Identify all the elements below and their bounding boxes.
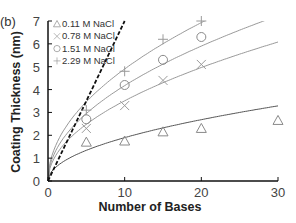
x-marker-icon bbox=[82, 124, 91, 133]
legend-label: 0.11 M NaCl bbox=[62, 18, 114, 29]
circle-marker-icon bbox=[159, 55, 168, 64]
circle-marker-icon bbox=[197, 33, 206, 42]
x-marker-icon bbox=[159, 76, 168, 85]
y-axis-title: Coating Thickness (nm) bbox=[9, 31, 23, 173]
plus-marker-icon bbox=[120, 66, 130, 76]
y-tick-label: 5 bbox=[33, 60, 40, 75]
triangle-marker-icon bbox=[196, 123, 206, 132]
triangle-marker-icon bbox=[273, 115, 283, 124]
triangle-marker-icon bbox=[54, 21, 61, 27]
plus-marker-icon bbox=[81, 105, 91, 115]
triangle-marker-icon bbox=[81, 137, 91, 146]
y-tick-label: 4 bbox=[33, 83, 40, 98]
x-marker-icon bbox=[120, 101, 129, 110]
circle-marker-icon bbox=[120, 81, 129, 90]
x-tick-label: 10 bbox=[117, 185, 131, 200]
legend: 0.11 M NaCl0.78 M NaCl1.51 M NaCl2.29 M … bbox=[54, 18, 115, 66]
coating-thickness-chart: 010203001234567 0.11 M NaCl0.78 M NaCl1.… bbox=[0, 0, 296, 223]
x-tick-label: 30 bbox=[271, 185, 285, 200]
circle-marker-icon bbox=[54, 45, 60, 51]
y-tick-label: 1 bbox=[33, 151, 40, 166]
x-axis-title: Number of Bases bbox=[99, 200, 202, 214]
plus-marker-icon bbox=[54, 57, 61, 64]
y-tick-label: 0 bbox=[33, 174, 40, 189]
circle-marker-icon bbox=[82, 115, 91, 124]
y-tick-label: 7 bbox=[33, 14, 40, 29]
legend-label: 1.51 M NaCl bbox=[62, 43, 115, 54]
y-tick-label: 3 bbox=[33, 105, 40, 120]
legend-label: 0.78 M NaCl bbox=[62, 30, 115, 41]
plus-marker-icon bbox=[158, 34, 168, 44]
legend-label: 2.29 M NaCl bbox=[62, 55, 115, 66]
x-marker-icon bbox=[54, 33, 60, 39]
x-tick-label: 20 bbox=[194, 185, 208, 200]
panel-label: (b) bbox=[0, 14, 16, 29]
y-tick-label: 2 bbox=[33, 128, 40, 143]
x-tick-label: 0 bbox=[44, 185, 51, 200]
y-tick-label: 6 bbox=[33, 37, 40, 52]
